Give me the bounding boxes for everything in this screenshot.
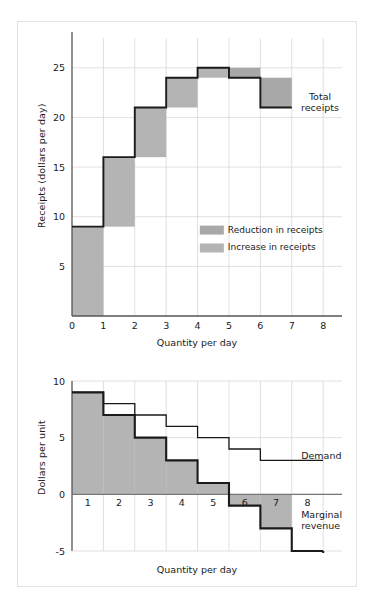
top-chart-x-tick-5: 5 bbox=[226, 320, 232, 331]
total-receipts-annotation: Totalreceipts bbox=[301, 91, 339, 113]
bottom-chart-y-axis-label: Dollars per unit bbox=[36, 420, 47, 495]
top-chart-x-axis-label: Quantity per day bbox=[157, 337, 238, 348]
bottom-chart-y-tick-10: 10 bbox=[53, 376, 65, 387]
top-chart-x-tick-2: 2 bbox=[132, 320, 138, 331]
legend-label-increase: Increase in receipts bbox=[228, 242, 316, 252]
bottom-chart-x-tick-4: 4 bbox=[179, 497, 185, 508]
top-chart-y-tick-20: 20 bbox=[53, 112, 65, 123]
bottom-chart-panel: Dollars per unit 12345678-50510 Demand M… bbox=[0, 355, 372, 605]
bottom-chart-svg: 12345678-50510 Demand Marginal revenue Q… bbox=[0, 355, 372, 605]
top-chart-y-tick-25: 25 bbox=[53, 62, 65, 73]
legend-swatch-reduction bbox=[200, 226, 224, 235]
bottom-chart-y-tick-0: 0 bbox=[59, 489, 65, 500]
bottom-chart-x-tick-7: 7 bbox=[273, 497, 279, 508]
top-chart-y-axis-label: Receipts (dollars per day) bbox=[36, 103, 47, 228]
bottom-chart-y-tick-5: 5 bbox=[59, 432, 65, 443]
top-chart-svg: 012345678510152025 Reduction in receipts… bbox=[0, 0, 372, 355]
demand-annotation: Demand bbox=[301, 450, 341, 461]
top-chart-x-tick-0: 0 bbox=[69, 320, 75, 331]
bottom-chart-x-tick-5: 5 bbox=[210, 497, 216, 508]
legend-label-reduction: Reduction in receipts bbox=[228, 225, 323, 235]
bottom-chart-x-tick-2: 2 bbox=[116, 497, 122, 508]
marginal-revenue-annotation-line2: revenue bbox=[301, 520, 340, 531]
top-chart-shaded-regions bbox=[72, 68, 292, 316]
top-chart-y-tick-10: 10 bbox=[53, 211, 65, 222]
bottom-chart-x-tick-6: 6 bbox=[242, 497, 248, 508]
marginal-revenue-annotation-line1: Marginal bbox=[301, 509, 342, 520]
top-chart-legend: Reduction in receiptsIncrease in receipt… bbox=[200, 225, 323, 253]
bottom-chart-x-tick-1: 1 bbox=[85, 497, 91, 508]
top-chart-y-tick-5: 5 bbox=[59, 261, 65, 272]
top-chart-x-tick-8: 8 bbox=[320, 320, 326, 331]
top-chart-panel: Receipts (dollars per day) 0123456785101… bbox=[0, 0, 372, 355]
top-chart-x-tick-4: 4 bbox=[195, 320, 201, 331]
legend-swatch-increase bbox=[200, 243, 224, 252]
top-chart-x-tick-6: 6 bbox=[257, 320, 263, 331]
figure-page: Receipts (dollars per day) 0123456785101… bbox=[0, 0, 372, 605]
top-chart-x-tick-7: 7 bbox=[289, 320, 295, 331]
top-chart-x-tick-1: 1 bbox=[100, 320, 106, 331]
top-chart-x-tick-3: 3 bbox=[163, 320, 169, 331]
bottom-chart-x-tick-3: 3 bbox=[147, 497, 153, 508]
top-chart-y-tick-15: 15 bbox=[53, 162, 65, 173]
bottom-chart-x-axis-label: Quantity per day bbox=[157, 564, 238, 575]
bottom-chart-y-tick--5: -5 bbox=[56, 546, 65, 557]
bottom-chart-x-tick-8: 8 bbox=[304, 497, 310, 508]
